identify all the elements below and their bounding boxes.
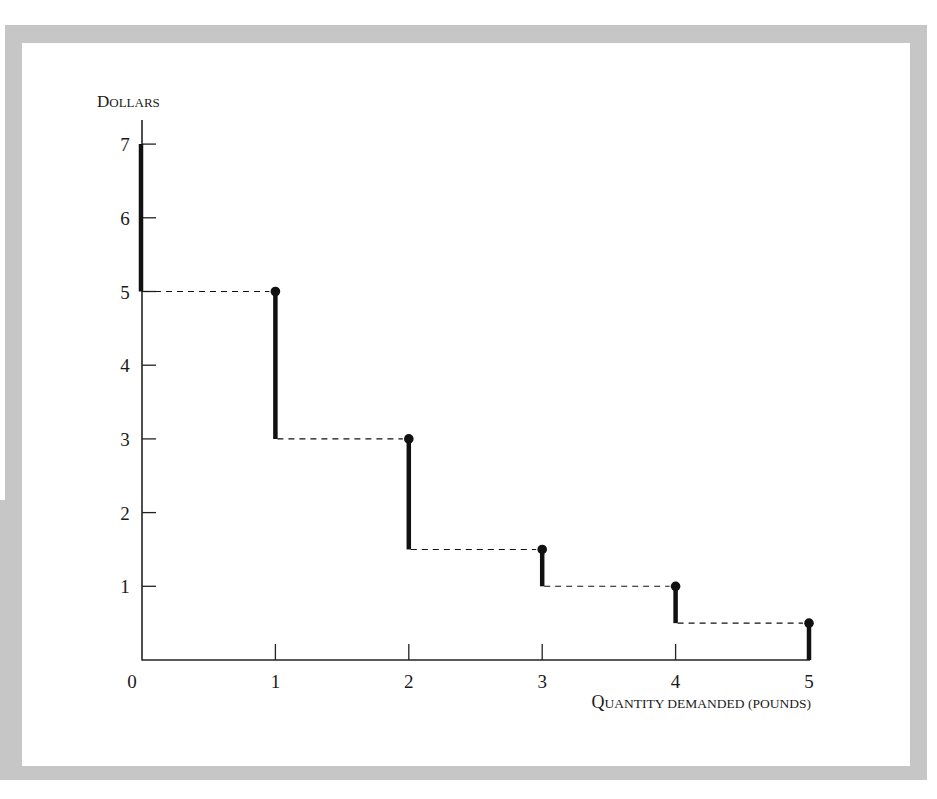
x-tick-label: 2 bbox=[404, 671, 414, 692]
axis-labels: 1234567012345DOLLARSQUANTITY DEMANDED (P… bbox=[97, 92, 814, 712]
price-dot bbox=[804, 618, 814, 628]
y-tick-label: 1 bbox=[120, 576, 130, 597]
axes bbox=[142, 120, 810, 661]
x-tick-label: 3 bbox=[537, 671, 547, 692]
x-tick-label: 5 bbox=[804, 671, 814, 692]
y-tick-label: 7 bbox=[120, 134, 130, 155]
price-dot bbox=[404, 434, 414, 444]
y-axis-title: DOLLARS bbox=[97, 92, 160, 111]
y-tick-label: 2 bbox=[120, 503, 130, 524]
demand-steps bbox=[141, 144, 814, 660]
price-dot bbox=[671, 582, 681, 592]
demand-step-chart: 1234567012345DOLLARSQUANTITY DEMANDED (P… bbox=[0, 0, 937, 799]
origin-label: 0 bbox=[127, 671, 137, 692]
y-tick-label: 4 bbox=[120, 355, 130, 376]
x-axis-title: QUANTITY DEMANDED (POUNDS) bbox=[591, 692, 811, 712]
y-tick-label: 6 bbox=[120, 208, 130, 229]
y-tick-label: 3 bbox=[120, 429, 130, 450]
y-tick-label: 5 bbox=[120, 282, 130, 303]
x-tick-label: 4 bbox=[671, 671, 681, 692]
price-dot bbox=[271, 287, 281, 297]
price-dot bbox=[537, 545, 547, 555]
x-tick-label: 1 bbox=[271, 671, 281, 692]
